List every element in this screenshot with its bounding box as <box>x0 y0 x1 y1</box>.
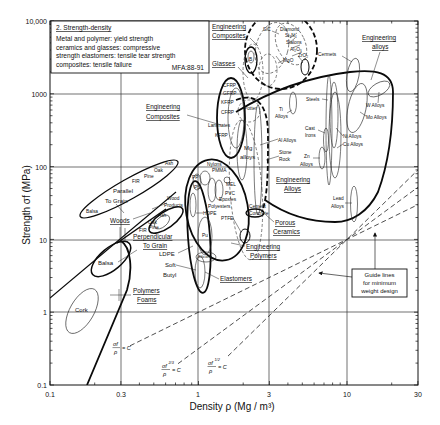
label-engineering-alloys: Engineering <box>276 176 311 184</box>
label-stone: Stone <box>279 150 292 155</box>
label-b: B <box>249 57 252 62</box>
label-cast: Cast <box>305 126 316 131</box>
label-engineering-composites-top: Engineering <box>212 23 247 31</box>
label-kfrp: KFRP <box>215 133 228 138</box>
y-tick: 10 <box>39 237 47 244</box>
label-pp: PP <box>192 175 198 180</box>
label-al-alloys: Al Alloys <box>278 138 297 143</box>
label-pmma: PMMA <box>212 168 227 173</box>
label-elastomers: Elastomers <box>220 275 252 282</box>
label-cu-alloys: Cu Alloys <box>343 142 364 147</box>
label-engineering-composites: Engineering <box>146 103 181 111</box>
label-zn: Zn <box>304 154 310 159</box>
label-cement: Cement <box>249 204 266 209</box>
label-to-grain-perp: To Grain <box>143 242 168 249</box>
x-tick-labels: 0.1 0.3 1 3 10 30 <box>45 391 422 398</box>
label-porous-ceramics: Porous <box>275 219 295 226</box>
elastomers-envelope <box>184 180 214 293</box>
polymers-envelope <box>176 154 256 293</box>
label-engineering-composites-top: Composites <box>212 32 246 40</box>
fraction-exponent: 2/3 <box>168 361 175 365</box>
label-concrete: Concrete <box>249 211 269 216</box>
label-w-alloys: W Alloys <box>366 103 385 108</box>
label-mgo: MgO <box>283 58 294 63</box>
label-kfrp: KFRP <box>221 100 234 105</box>
equation-rhs: = C <box>172 367 182 373</box>
label-ldpe: LDPE <box>159 251 175 257</box>
label-zro2: ZrO₂ <box>298 53 308 58</box>
label-polyesters: Polyesters <box>208 204 231 209</box>
guide-note-box: Guide lines for minimum weight design <box>319 233 407 297</box>
legend-line-2: ceramics and glasses: compressive <box>56 44 160 52</box>
label-products: Products <box>164 203 184 208</box>
label-cermets: Cermets <box>318 52 337 57</box>
label-nylons: Nylons <box>207 162 222 167</box>
x-tick: 0.1 <box>45 391 55 398</box>
guide-line-label-1: σf ρ = C <box>113 341 132 355</box>
legend-line-3: strength elastomers: tensile tear streng… <box>56 52 176 60</box>
y-axis-title: Strength σf (MPa) <box>21 165 32 245</box>
y-tick: 1 <box>43 309 47 316</box>
label-balsa-parallel: Balsa <box>86 209 98 214</box>
porous-ceramics-envelope <box>225 98 279 261</box>
label-potter: Potter <box>244 106 257 111</box>
label-ash-parallel: Ash <box>165 161 174 166</box>
label-diamond: Diamond <box>280 27 300 32</box>
y-tick: 0.1 <box>37 382 47 389</box>
label-ti: Ti <box>279 107 283 112</box>
x-tick: 10 <box>343 391 351 398</box>
label-epoxies: Epoxies <box>219 197 237 202</box>
y-tick: 100 <box>35 164 47 171</box>
label-engineering-alloys: Alloys <box>284 185 301 193</box>
guide-note-line: for minimum <box>363 280 396 286</box>
label-soft: Soft <box>165 262 176 268</box>
label-lead-alloys: Alloys <box>331 204 344 209</box>
label-engineering-polymers: Engineering <box>246 243 281 251</box>
label-ash-perp: Ash <box>158 213 167 218</box>
label-pu: Pu <box>202 233 208 238</box>
label-polymers-foams: Foams <box>137 296 157 303</box>
label-pine-perp: Pine <box>149 225 159 230</box>
label-polymers-foams: Polymers <box>133 287 160 295</box>
label-cfrp: CFRP <box>223 83 236 88</box>
label-ps: PS <box>194 185 200 190</box>
label-pvc: PVC <box>225 191 235 196</box>
label-engineering-polymers: Polymers <box>250 252 277 260</box>
label-engineering-composites: Composites <box>146 113 180 121</box>
x-tick: 0.3 <box>116 391 126 398</box>
fraction-numerator: σf <box>113 341 119 347</box>
fraction-exponent: 1/2 <box>215 358 221 362</box>
guide-line-label-3: σf 1/2 ρ = C <box>208 358 228 374</box>
label-gfrp: GFRP <box>223 91 236 96</box>
label-cfrp: CFRP <box>221 110 234 115</box>
label-wood: Wood <box>167 196 180 201</box>
label-ni-alloys: Ni Alloys <box>343 134 362 139</box>
equation-rhs: = C <box>218 364 228 370</box>
x-axis-title: Density ρ (Mg / m³) <box>189 401 274 412</box>
label-lead: Lead <box>333 196 344 201</box>
guide-note-line: weight design <box>360 288 398 294</box>
label-mo-alloys: Mo Alloys <box>366 115 387 120</box>
label-silicone: Silicone <box>198 254 213 259</box>
label-sialons: Sialons <box>286 40 302 45</box>
label-irons: Irons <box>305 133 316 138</box>
guide-line-slope-2 <box>228 170 418 356</box>
label-mel: MEL <box>226 182 236 187</box>
label-mg: Mg <box>244 145 252 151</box>
label-ti-alloys: Alloys <box>275 114 288 119</box>
label-steels: Steels <box>306 97 320 102</box>
label-rock: Rock <box>279 157 291 162</box>
label-cork: Cork <box>75 307 89 313</box>
label-engineering-alloys-top: Engineering <box>362 34 397 42</box>
label-ptfe: PTFE <box>221 216 233 221</box>
label-al2o3: Al₂O₃ <box>290 47 302 52</box>
label-perpendicular: Perpendicular <box>133 233 173 241</box>
label-si3n4: Si₃N₄ <box>285 33 297 38</box>
label-glasses: Glasses <box>212 60 235 67</box>
label-balsa-perp: Balsa <box>98 260 114 266</box>
chart-code: MFA:88-91 <box>172 64 205 71</box>
label-hdpe: HDPE <box>203 211 216 216</box>
polymer-foams-envelope <box>59 241 131 385</box>
fraction-numerator: σf <box>162 363 168 369</box>
x-tick: 3 <box>267 391 271 398</box>
